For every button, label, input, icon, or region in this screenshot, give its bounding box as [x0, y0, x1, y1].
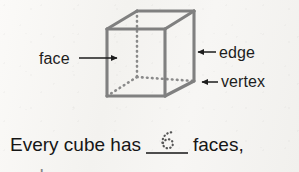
- worksheet-sentence: Every cube has faces,: [10, 129, 244, 154]
- answer-blank[interactable]: [146, 129, 188, 154]
- cube-solid-edges: [107, 11, 194, 96]
- cube-hidden-edges: [107, 11, 194, 96]
- sentence-lead-text: Every cube has: [10, 135, 141, 154]
- callout-label-vertex: vertex: [221, 74, 265, 90]
- sentence-tail-text: faces,: [193, 135, 244, 154]
- traced-digit-six: [155, 128, 179, 152]
- callout-label-edge: edge: [219, 45, 255, 61]
- worksheet-page: face edge vertex Every cube has faces, a…: [0, 0, 299, 172]
- edge-top-right-diagonal: [165, 11, 194, 29]
- next-line-peek: and ,: [12, 166, 287, 172]
- hidden-edge-to-front-bottom-left: [107, 77, 137, 96]
- edge-top-left-diagonal: [107, 11, 137, 29]
- callout-label-face: face: [39, 51, 70, 67]
- edge-bottom-right-diagonal: [165, 81, 194, 96]
- answer-blank-rule: [146, 152, 188, 154]
